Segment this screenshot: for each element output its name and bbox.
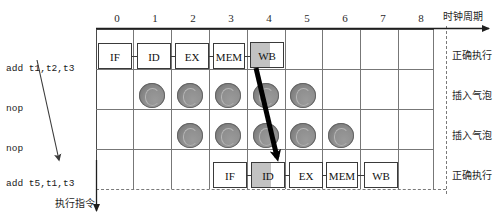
- instruction-label-row-3: nop: [6, 143, 23, 155]
- stage-label: MEM: [216, 51, 242, 63]
- stage-label: ID: [262, 170, 274, 182]
- grid-hline: [96, 149, 434, 150]
- row-status-1: 正确执行: [452, 50, 492, 62]
- stage-label: WB: [258, 50, 276, 62]
- stage-box-if-row-4: IF: [213, 162, 247, 188]
- bubble: [328, 123, 354, 148]
- stage-box-if-row-1: IF: [98, 43, 132, 69]
- stage-box-mem-row-4: MEM: [326, 162, 358, 188]
- stage-box-ex-row-1: EX: [175, 43, 209, 69]
- cycle-header-6: 6: [325, 12, 365, 25]
- stage-box-mem-row-1: MEM: [213, 43, 245, 69]
- stage-label: EX: [299, 170, 314, 182]
- cycle-header-7: 7: [363, 12, 403, 25]
- stage-label: IF: [225, 170, 235, 182]
- bubble: [290, 123, 316, 148]
- cycle-header-3: 3: [211, 12, 251, 25]
- stage-label: ID: [148, 51, 160, 63]
- cycle-header-8: 8: [401, 12, 441, 25]
- stage-box-wb-row-4: WB: [364, 162, 398, 188]
- bubble: [253, 83, 279, 108]
- instruction-label-row-1: add t1,t2,t3: [6, 63, 74, 75]
- stage-label: EX: [185, 51, 200, 63]
- stage-box-ex-row-4: EX: [289, 162, 323, 188]
- bubble: [139, 83, 165, 108]
- bubble: [215, 83, 241, 108]
- pipeline-diagram: 0 1 2 3 4 5 6 7 8 add t1,t2,t3 IF ID EX: [0, 0, 497, 222]
- grid-hline: [96, 69, 434, 70]
- table-bottom-dashed-boundary: [96, 189, 446, 190]
- clock-cycle-axis-label: 时钟周期: [443, 11, 483, 23]
- grid-hline: [96, 29, 434, 30]
- grid-hline: [96, 109, 434, 110]
- stage-box-id-row-1: ID: [137, 43, 171, 69]
- bubble: [290, 83, 316, 108]
- stage-box-id-row-4: ID: [251, 162, 285, 188]
- row-status-2: 插入气泡: [452, 90, 492, 102]
- cycle-header-0: 0: [97, 12, 137, 25]
- execute-instruction-axis-label: 执行指令: [55, 198, 95, 210]
- instruction-label-row-4: add t5,t1,t3: [6, 178, 74, 190]
- row-status-4: 正确执行: [452, 170, 492, 182]
- cycle-header-1: 1: [135, 12, 175, 25]
- bubble: [215, 123, 241, 148]
- stage-label: MEM: [329, 170, 355, 182]
- bubble: [253, 123, 279, 148]
- cycle-header-2: 2: [173, 12, 213, 25]
- table-right-dashed-boundary: [446, 26, 447, 194]
- bubble: [177, 123, 203, 148]
- instruction-label-row-2: nop: [6, 103, 23, 115]
- cycle-header-5: 5: [287, 12, 327, 25]
- cycle-header-4: 4: [249, 12, 289, 25]
- row-status-3: 插入气泡: [452, 130, 492, 142]
- stage-box-wb-row-1: WB: [250, 42, 284, 68]
- dependency-arrow: [37, 60, 59, 160]
- bubble: [177, 83, 203, 108]
- stage-label: IF: [110, 51, 120, 63]
- stage-label: WB: [372, 170, 390, 182]
